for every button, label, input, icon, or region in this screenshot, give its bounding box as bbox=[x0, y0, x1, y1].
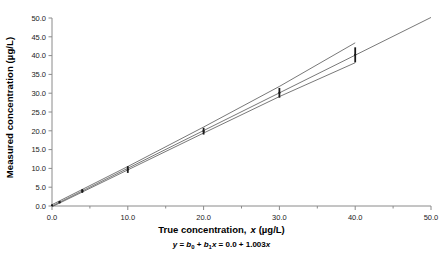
y-tick-label: 40.0 bbox=[31, 51, 46, 60]
lower-confidence-band bbox=[52, 63, 355, 207]
y-tick-label: 10.0 bbox=[31, 164, 46, 173]
y-axis-ticks: 0.05.010.015.020.025.030.035.040.045.050… bbox=[31, 14, 52, 211]
x-axis-title: True concentration,x(µg/L) bbox=[0, 224, 443, 235]
y-tick-label: 5.0 bbox=[36, 183, 46, 192]
data-point bbox=[203, 130, 205, 132]
y-axis-title: Measured concentration (µg/L) bbox=[0, 0, 20, 215]
y-tick-label: 30.0 bbox=[31, 89, 46, 98]
x-tick-label: 0.0 bbox=[47, 213, 57, 222]
plot-canvas: 0.05.010.015.020.025.030.035.040.045.050… bbox=[0, 0, 443, 261]
regression-line bbox=[52, 17, 431, 206]
y-tick-label: 25.0 bbox=[31, 108, 46, 117]
y-tick-label: 15.0 bbox=[31, 145, 46, 154]
data-point bbox=[127, 168, 129, 170]
x-tick-label: 20.0 bbox=[196, 213, 211, 222]
x-axis-title-text: True concentration, bbox=[158, 224, 246, 235]
equation-plus2: + bbox=[237, 240, 246, 249]
chart-figure: Measured concentration (µg/L) 0.05.010.0… bbox=[0, 0, 443, 261]
x-axis-title-unit: (µg/L) bbox=[259, 224, 285, 235]
equation-x2: x bbox=[266, 240, 270, 249]
x-tick-label: 40.0 bbox=[348, 213, 363, 222]
x-tick-label: 10.0 bbox=[120, 213, 135, 222]
equation-eq1: = bbox=[177, 240, 186, 249]
y-tick-label: 50.0 bbox=[31, 14, 46, 23]
data-point bbox=[278, 92, 280, 94]
y-tick-label: 35.0 bbox=[31, 70, 46, 79]
upper-confidence-band bbox=[52, 43, 355, 205]
data-point bbox=[81, 190, 83, 192]
equation-intercept: 0.0 bbox=[226, 240, 237, 249]
confidence-bands bbox=[52, 43, 355, 207]
data-point bbox=[354, 54, 356, 56]
equation-plus1: + bbox=[195, 240, 204, 249]
data-point bbox=[51, 204, 53, 206]
equation-eq2: = bbox=[216, 240, 225, 249]
x-axis-ticks: 0.010.020.030.040.050.0 bbox=[47, 206, 439, 222]
regression-line-path bbox=[52, 17, 431, 206]
x-axis-title-variable: x bbox=[250, 224, 255, 235]
equation-slope: 1.003 bbox=[246, 240, 266, 249]
y-tick-label: 20.0 bbox=[31, 127, 46, 136]
data-point bbox=[58, 201, 60, 203]
y-tick-label: 45.0 bbox=[31, 33, 46, 42]
y-axis-title-text: Measured concentration (µg/L) bbox=[5, 37, 16, 178]
x-tick-label: 50.0 bbox=[424, 213, 439, 222]
x-tick-label: 30.0 bbox=[272, 213, 287, 222]
regression-equation: y = b0 + b1x = 0.0 + 1.003x bbox=[0, 240, 443, 250]
y-tick-label: 0.0 bbox=[36, 202, 46, 211]
